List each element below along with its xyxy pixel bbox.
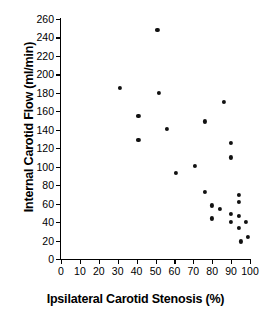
data-point <box>246 235 250 239</box>
y-tick <box>56 167 61 168</box>
x-tick <box>250 259 251 264</box>
y-tick-label-20: 20 <box>42 235 54 246</box>
y-tick-label-160: 160 <box>36 106 54 117</box>
x-tick <box>193 259 194 264</box>
data-point <box>221 100 225 104</box>
x-tick-label-70: 70 <box>187 266 199 277</box>
x-tick-label-80: 80 <box>206 266 218 277</box>
x-tick-label-100: 100 <box>241 266 259 277</box>
y-tick <box>56 204 61 205</box>
x-tick-label-0: 0 <box>58 266 64 277</box>
x-tick-label-10: 10 <box>74 266 86 277</box>
y-tick-label-220: 220 <box>36 51 54 62</box>
x-tick-label-60: 60 <box>169 266 181 277</box>
y-tick <box>56 93 61 94</box>
data-point <box>238 239 242 243</box>
data-point <box>244 220 248 224</box>
data-point <box>136 114 140 118</box>
data-point <box>237 214 241 218</box>
x-tick <box>118 259 119 264</box>
data-point <box>229 141 233 145</box>
y-tick <box>56 185 61 186</box>
y-tick-label-0: 0 <box>48 254 54 265</box>
y-tick <box>56 19 61 20</box>
y-tick <box>56 111 61 112</box>
x-tick-label-20: 20 <box>93 266 105 277</box>
y-tick-label-80: 80 <box>42 180 54 191</box>
x-tick <box>156 259 157 264</box>
data-point <box>155 28 159 32</box>
x-tick-label-50: 50 <box>150 266 162 277</box>
x-tick <box>212 259 213 264</box>
x-tick <box>61 259 62 264</box>
scatter-plot-figure: Internal Carotid Flow (ml/min) 020406080… <box>0 0 271 317</box>
y-tick <box>56 74 61 75</box>
y-tick-label-240: 240 <box>36 32 54 43</box>
data-point <box>193 164 197 168</box>
x-tick <box>231 259 232 264</box>
data-point <box>237 226 241 230</box>
plot-area: 020406080100120140160180200220240260 010… <box>61 19 250 259</box>
x-tick <box>80 259 81 264</box>
x-tick <box>137 259 138 264</box>
y-tick-label-200: 200 <box>36 69 54 80</box>
y-tick-label-60: 60 <box>42 198 54 209</box>
x-tick-label-30: 30 <box>112 266 124 277</box>
y-tick <box>56 37 61 38</box>
data-point <box>237 193 241 197</box>
y-tick <box>56 130 61 131</box>
data-point <box>210 203 214 207</box>
data-point <box>218 207 222 211</box>
y-axis-title: Internal Carotid Flow (ml/min) <box>22 12 36 242</box>
data-point <box>229 155 233 159</box>
x-tick-label-40: 40 <box>131 266 143 277</box>
data-point <box>136 138 140 142</box>
y-tick <box>56 148 61 149</box>
y-tick-label-120: 120 <box>36 143 54 154</box>
data-point <box>203 119 207 123</box>
y-tick-label-260: 260 <box>36 14 54 25</box>
data-point <box>210 216 214 220</box>
data-point <box>229 212 233 216</box>
data-point <box>229 220 233 224</box>
y-tick <box>56 222 61 223</box>
y-tick-label-180: 180 <box>36 88 54 99</box>
x-tick <box>99 259 100 264</box>
data-point <box>117 86 121 90</box>
data-point <box>165 127 169 131</box>
data-point <box>174 171 178 175</box>
y-tick-label-100: 100 <box>36 161 54 172</box>
x-tick-label-90: 90 <box>225 266 237 277</box>
x-tick <box>174 259 175 264</box>
data-point <box>157 91 161 95</box>
y-tick-label-140: 140 <box>36 125 54 136</box>
y-tick <box>56 56 61 57</box>
y-tick <box>56 241 61 242</box>
data-point <box>237 200 241 204</box>
data-point <box>203 190 207 194</box>
y-tick-label-40: 40 <box>42 217 54 228</box>
x-axis-title: Ipsilateral Carotid Stenosis (%) <box>0 292 271 306</box>
